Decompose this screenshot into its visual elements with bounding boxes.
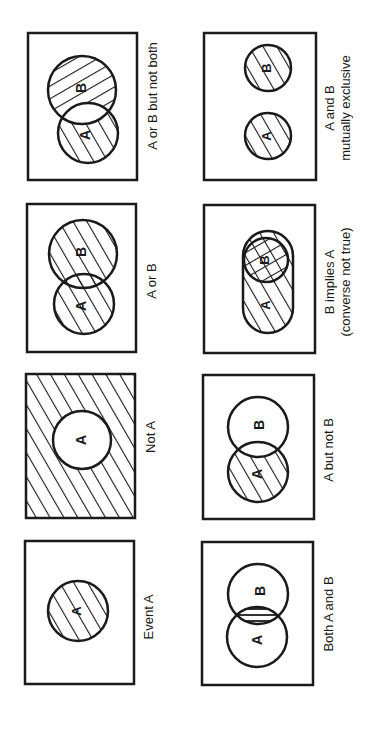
label-a-or-b: A or B: [144, 263, 160, 298]
svg-text:B: B: [251, 420, 267, 430]
svg-text:B: B: [259, 63, 274, 72]
panel-event-a: A: [25, 541, 134, 684]
svg-text:B: B: [73, 83, 89, 93]
label-mutually-exclusive-line2: mutually exclusive: [338, 55, 354, 161]
panel-both-a-and-b: B A: [202, 542, 313, 685]
label-b-implies-a: B implies A (converse not true): [322, 227, 354, 336]
panel-a-or-b-not-both: B A: [28, 33, 137, 180]
svg-text:A: A: [249, 469, 265, 479]
panel-not-a: A: [26, 374, 135, 518]
svg-text:A: A: [258, 300, 273, 310]
svg-text:B: B: [73, 247, 89, 257]
svg-text:A: A: [249, 635, 265, 645]
panel-mutually-exclusive: B A: [204, 33, 316, 180]
label-mutually-exclusive-line1: A and B: [322, 55, 338, 161]
label-not-a: Not A: [143, 421, 159, 453]
svg-text:A: A: [73, 435, 89, 445]
svg-text:A: A: [69, 606, 84, 616]
label-both-a-and-b: Both A and B: [321, 576, 337, 651]
label-event-a: Event A: [141, 595, 157, 640]
panel-b-implies-a: B A: [204, 205, 315, 353]
svg-text:B: B: [252, 586, 268, 596]
svg-text:A: A: [259, 131, 274, 141]
panel-a-or-b: B A: [27, 204, 136, 352]
label-b-implies-a-line2: (converse not true): [338, 227, 354, 336]
label-b-implies-a-line1: B implies A: [322, 227, 338, 336]
label-a-but-not-b: A but not B: [321, 418, 337, 482]
svg-text:B: B: [257, 255, 272, 264]
label-a-or-b-not-both: A or B but not both: [145, 42, 161, 150]
panel-a-but-not-b: B A: [203, 375, 314, 519]
svg-text:A: A: [73, 301, 89, 311]
svg-text:A: A: [77, 130, 93, 140]
label-mutually-exclusive: A and B mutually exclusive: [322, 55, 354, 161]
